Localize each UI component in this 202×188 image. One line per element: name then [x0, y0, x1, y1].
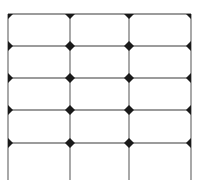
half-diamond-left-marker-icon	[186, 41, 191, 51]
triangle-down-marker-icon	[124, 14, 134, 19]
corner-marker-icon	[8, 14, 13, 19]
diamond-marker-icon	[65, 41, 75, 51]
half-diamond-left-marker-icon	[186, 105, 191, 115]
diamond-marker-icon	[65, 73, 75, 83]
grid-lines	[8, 14, 191, 180]
half-diamond-left-marker-icon	[186, 73, 191, 83]
half-diamond-right-marker-icon	[8, 105, 13, 115]
half-diamond-left-marker-icon	[186, 138, 191, 148]
diamond-marker-icon	[124, 138, 134, 148]
triangle-down-marker-icon	[65, 14, 75, 19]
diamond-marker-icon	[65, 138, 75, 148]
diamond-marker-icon	[124, 73, 134, 83]
diamond-marker-icon	[124, 105, 134, 115]
half-diamond-right-marker-icon	[8, 73, 13, 83]
corner-marker-icon	[186, 14, 191, 19]
diamond-marker-icon	[65, 105, 75, 115]
grid-diagram	[0, 0, 202, 188]
diamond-marker-icon	[124, 41, 134, 51]
half-diamond-right-marker-icon	[8, 138, 13, 148]
half-diamond-right-marker-icon	[8, 41, 13, 51]
junction-markers	[8, 14, 191, 148]
